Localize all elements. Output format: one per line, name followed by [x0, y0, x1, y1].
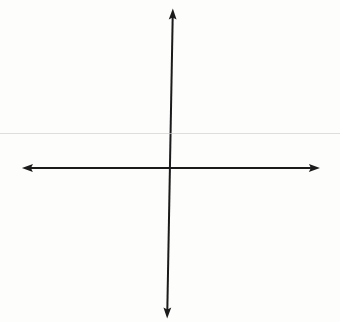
- coordinate-plane-svg: [0, 0, 340, 322]
- plot-area: [19, 9, 323, 319]
- y-axis-line: [167, 16, 172, 311]
- coordinate-plane: [0, 0, 340, 322]
- y-axis: [163, 9, 176, 319]
